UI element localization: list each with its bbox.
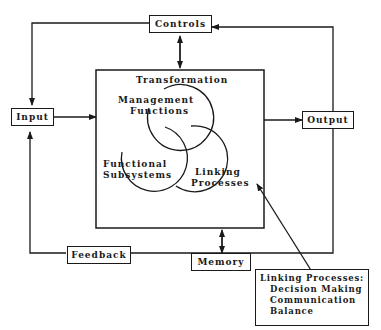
output-label: Output	[307, 115, 349, 125]
linking-processes-label: Linking Processes	[191, 167, 250, 189]
transformation-title: Transformation	[136, 75, 228, 86]
linking-processes-note: Linking Processes: Decision Making Commu…	[255, 269, 369, 326]
controls-box: Controls	[149, 15, 212, 33]
functional-subsystems-label: Functional Subsystems	[103, 159, 172, 181]
memory-box: Memory	[191, 253, 251, 271]
feedback-label: Feedback	[71, 250, 126, 260]
memory-label: Memory	[197, 257, 244, 267]
input-box: Input	[11, 108, 54, 126]
controls-label: Controls	[155, 19, 206, 29]
input-label: Input	[16, 112, 49, 122]
output-box: Output	[302, 111, 354, 129]
management-functions-label: Management Functions	[118, 95, 194, 117]
feedback-box: Feedback	[67, 246, 131, 264]
